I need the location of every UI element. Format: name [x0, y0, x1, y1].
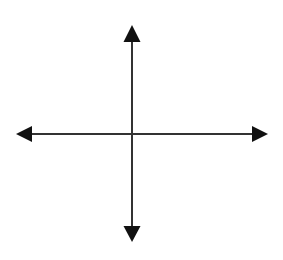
axes-diagram: [0, 0, 283, 260]
arrow-up-icon: [124, 25, 141, 42]
axes-svg: [0, 0, 283, 260]
arrow-left-icon: [16, 126, 32, 142]
arrow-right-icon: [252, 126, 268, 142]
arrow-down-icon: [124, 226, 141, 242]
